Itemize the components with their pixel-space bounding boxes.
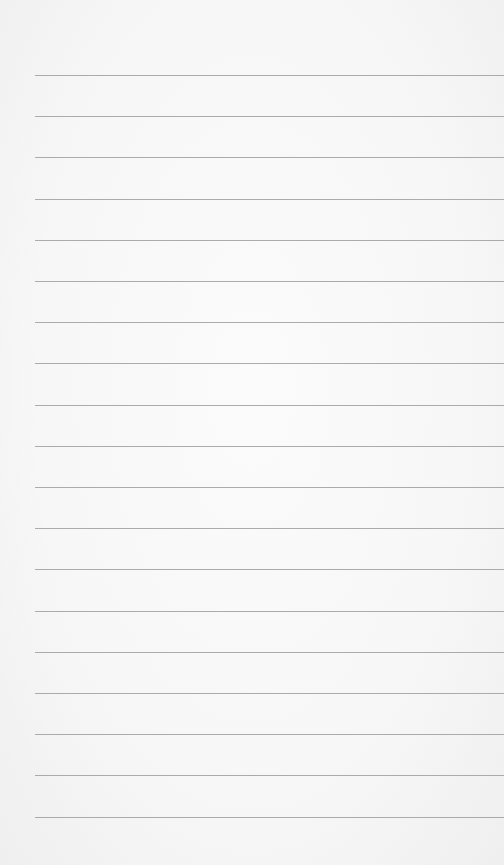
ruled-line (35, 528, 504, 529)
ruled-line (35, 569, 504, 570)
ruled-line (35, 240, 504, 241)
ruled-line (35, 199, 504, 200)
ruled-line (35, 487, 504, 488)
ruled-line (35, 281, 504, 282)
ruled-line (35, 322, 504, 323)
ruled-line (35, 817, 504, 818)
ruled-line (35, 693, 504, 694)
ruled-line (35, 446, 504, 447)
ruled-line (35, 652, 504, 653)
ruled-line (35, 157, 504, 158)
ruled-line (35, 611, 504, 612)
ruled-line (35, 75, 504, 76)
ruled-line (35, 116, 504, 117)
ruled-line (35, 775, 504, 776)
ruled-line (35, 363, 504, 364)
ruled-line (35, 734, 504, 735)
ruled-line (35, 405, 504, 406)
lined-paper (0, 0, 504, 865)
